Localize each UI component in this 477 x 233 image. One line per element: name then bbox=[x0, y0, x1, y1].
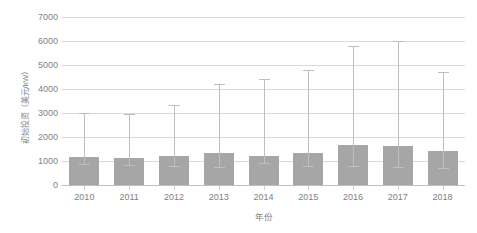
x-tick-label-2018: 2018 bbox=[433, 192, 453, 202]
error-bar-line-2013 bbox=[219, 84, 220, 167]
error-bar-cap-lower-2015 bbox=[303, 166, 314, 167]
error-bar-cap-upper-2012 bbox=[169, 105, 180, 106]
error-bar-cap-upper-2018 bbox=[438, 72, 449, 73]
gridline-7000 bbox=[62, 17, 465, 18]
x-tick-label-2010: 2010 bbox=[74, 192, 94, 202]
gridline-5000 bbox=[62, 65, 465, 66]
error-bar-line-2018 bbox=[443, 72, 444, 168]
y-tick-label: 0 bbox=[53, 180, 58, 190]
error-bar-line-2015 bbox=[308, 70, 309, 166]
chart-container: 初始投资（美元/kW） 0100020003000400050006000700… bbox=[0, 0, 477, 233]
error-bar-line-2012 bbox=[174, 105, 175, 166]
x-axis-title: 年份 bbox=[62, 210, 465, 222]
y-tick-label: 7000 bbox=[38, 12, 58, 22]
x-axis-tick-labels: 201020112012201320142015201620172018 bbox=[62, 192, 465, 206]
error-bar-cap-lower-2012 bbox=[169, 166, 180, 167]
x-tick-label-2017: 2017 bbox=[388, 192, 408, 202]
error-bar-cap-lower-2010 bbox=[79, 164, 90, 165]
error-bar-cap-upper-2013 bbox=[214, 84, 225, 85]
error-bar-cap-upper-2011 bbox=[124, 114, 135, 115]
x-tick bbox=[353, 186, 354, 190]
x-tick bbox=[308, 186, 309, 190]
y-tick-label: 6000 bbox=[38, 36, 58, 46]
x-tick-label-2013: 2013 bbox=[209, 192, 229, 202]
error-bar-line-2017 bbox=[398, 41, 399, 167]
error-bar-cap-upper-2015 bbox=[303, 70, 314, 71]
error-bar-cap-upper-2016 bbox=[348, 46, 359, 47]
y-tick-label: 3000 bbox=[38, 108, 58, 118]
y-tick-label: 2000 bbox=[38, 132, 58, 142]
gridline-6000 bbox=[62, 41, 465, 42]
error-bar-cap-upper-2010 bbox=[79, 113, 90, 114]
y-tick-label: 4000 bbox=[38, 84, 58, 94]
y-tick-label: 5000 bbox=[38, 60, 58, 70]
x-tick-label-2014: 2014 bbox=[253, 192, 273, 202]
y-axis-tick-labels: 01000200030004000500060007000 bbox=[0, 17, 58, 185]
x-tick bbox=[264, 186, 265, 190]
x-tick bbox=[84, 186, 85, 190]
x-tick bbox=[398, 186, 399, 190]
error-bar-line-2014 bbox=[264, 79, 265, 163]
error-bar-line-2016 bbox=[353, 46, 354, 166]
x-tick bbox=[443, 186, 444, 190]
error-bar-line-2010 bbox=[84, 113, 85, 164]
error-bar-cap-lower-2011 bbox=[124, 165, 135, 166]
error-bar-cap-lower-2013 bbox=[214, 167, 225, 168]
error-bar-cap-lower-2018 bbox=[438, 168, 449, 169]
error-bar-cap-upper-2014 bbox=[259, 79, 270, 80]
x-tick bbox=[219, 186, 220, 190]
x-tick-label-2012: 2012 bbox=[164, 192, 184, 202]
x-tick-label-2011: 2011 bbox=[119, 192, 138, 202]
x-tick bbox=[129, 186, 130, 190]
error-bar-cap-lower-2017 bbox=[393, 167, 404, 168]
x-tick-label-2016: 2016 bbox=[343, 192, 363, 202]
x-tick bbox=[174, 186, 175, 190]
error-bar-line-2011 bbox=[129, 114, 130, 164]
x-tick-label-2015: 2015 bbox=[298, 192, 318, 202]
error-bar-cap-lower-2016 bbox=[348, 166, 359, 167]
plot-area bbox=[62, 17, 465, 185]
error-bar-cap-lower-2014 bbox=[259, 163, 270, 164]
error-bar-cap-upper-2017 bbox=[393, 41, 404, 42]
y-tick-label: 1000 bbox=[38, 156, 58, 166]
